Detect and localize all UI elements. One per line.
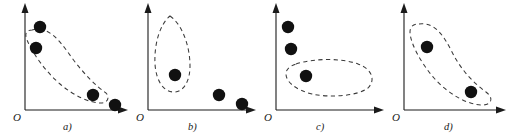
panel-a: O a) bbox=[0, 0, 130, 140]
panel-b: O b) bbox=[130, 0, 258, 140]
data-point bbox=[34, 21, 46, 33]
origin-label-d: O bbox=[392, 112, 400, 123]
data-point bbox=[109, 99, 121, 111]
origin-label-c: O bbox=[264, 112, 272, 123]
cluster-diagram-figure: O a) O b) bbox=[0, 0, 514, 140]
panel-d-canvas bbox=[386, 0, 514, 140]
panel-a-axes bbox=[22, 3, 129, 114]
panel-c-axes bbox=[273, 3, 385, 114]
data-point bbox=[300, 70, 312, 82]
panel-d: O d) bbox=[386, 0, 514, 140]
panel-c-canvas bbox=[258, 0, 386, 140]
origin-label-a: O bbox=[13, 112, 21, 123]
data-point bbox=[236, 98, 248, 110]
caption-c: c) bbox=[316, 122, 324, 133]
x-axis-arrow-c bbox=[374, 107, 384, 114]
panel-c: O c) bbox=[258, 0, 386, 140]
data-point bbox=[87, 89, 99, 101]
y-axis-arrow-c bbox=[273, 3, 280, 13]
data-point bbox=[465, 86, 477, 98]
data-points-b bbox=[169, 69, 248, 110]
data-point bbox=[282, 21, 294, 33]
y-axis-arrow-a bbox=[22, 3, 29, 13]
data-points-c bbox=[282, 21, 312, 82]
data-point bbox=[213, 89, 225, 101]
data-point bbox=[285, 43, 297, 55]
panel-b-canvas bbox=[130, 0, 258, 140]
y-axis-arrow-b bbox=[145, 3, 152, 13]
caption-a: a) bbox=[63, 122, 72, 133]
data-point bbox=[169, 69, 181, 81]
y-axis-arrow-d bbox=[401, 3, 408, 13]
origin-label-b: O bbox=[136, 112, 144, 123]
data-point bbox=[421, 41, 433, 53]
panel-b-axes bbox=[145, 3, 257, 114]
cluster-boundary-c bbox=[286, 60, 372, 97]
caption-b: b) bbox=[188, 122, 197, 133]
data-points-d bbox=[421, 41, 477, 98]
cluster-boundary-d bbox=[410, 24, 491, 105]
data-point bbox=[30, 42, 42, 54]
caption-d: d) bbox=[444, 122, 453, 133]
panel-d-axes bbox=[401, 3, 507, 114]
x-axis-arrow-d bbox=[496, 107, 506, 114]
x-axis-arrow-b bbox=[246, 107, 256, 114]
